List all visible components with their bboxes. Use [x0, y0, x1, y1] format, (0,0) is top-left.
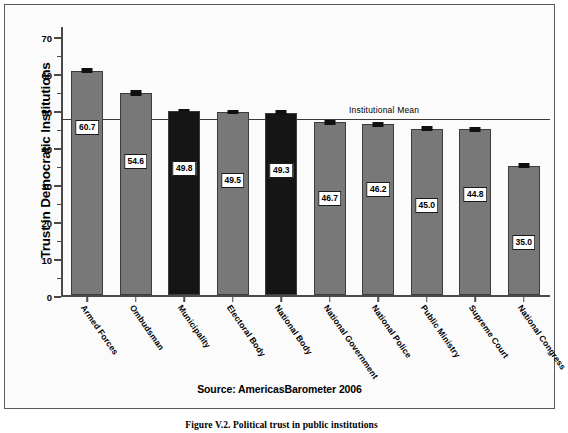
x-axis-label: Public Ministry [419, 303, 463, 359]
bar[interactable] [217, 112, 249, 295]
bar[interactable] [71, 71, 103, 296]
y-tick-minor [57, 167, 61, 169]
y-tick-minor [57, 93, 61, 95]
x-tick [378, 297, 380, 302]
y-tick-label: 0 [47, 292, 52, 303]
bar-value-label: 49.5 [221, 173, 245, 188]
error-bar [421, 126, 432, 130]
y-tick-label: 20 [41, 218, 52, 229]
bar-slot: 45.0Public Ministry [403, 27, 452, 295]
y-tick-label: 30 [41, 181, 52, 192]
y-tick-label: 10 [41, 255, 52, 266]
x-tick [523, 297, 525, 302]
y-tick [54, 259, 61, 261]
bar[interactable] [168, 111, 200, 295]
error-bar [276, 110, 287, 114]
bar-value-label: 46.2 [366, 182, 390, 197]
figure-caption: Figure V.2. Political trust in public in… [0, 420, 563, 430]
bar-value-label: 49.3 [269, 163, 293, 178]
bar-value-label: 60.7 [75, 120, 99, 135]
bar-series: 60.7Armed Forces54.6Ombudsman49.8Municip… [63, 27, 550, 295]
y-tick [54, 37, 61, 39]
y-tick-label: 50 [41, 107, 52, 118]
error-bar [82, 68, 93, 74]
bar[interactable] [120, 93, 152, 295]
bar-slot: 54.6Ombudsman [112, 27, 161, 295]
y-tick-minor [57, 278, 61, 280]
error-bar [130, 90, 141, 97]
x-axis-label: Electoral Body [225, 303, 268, 359]
x-axis-label: National Government [322, 303, 381, 381]
x-axis-label: National Police [370, 303, 414, 360]
x-axis-label: National Body [273, 303, 315, 357]
x-tick [329, 297, 331, 302]
bar[interactable] [265, 113, 297, 295]
chart-frame: Trust in Democratic Institutions 0102030… [4, 4, 555, 409]
x-axis-label: Supreme Court [467, 303, 511, 360]
error-bar [179, 109, 190, 113]
y-tick-label: 60 [41, 70, 52, 81]
bar[interactable] [314, 122, 346, 295]
y-tick [54, 222, 61, 224]
bar-slot: 35.0National Congress [500, 27, 549, 295]
x-axis-label: Ombudsman [128, 303, 167, 352]
bar-value-label: 44.8 [463, 187, 487, 202]
source-note: Source: AmericasBarometer 2006 [5, 383, 554, 395]
bar-slot: 46.2National Police [354, 27, 403, 295]
error-bar [373, 122, 384, 127]
y-tick-label: 70 [41, 33, 52, 44]
y-tick [54, 148, 61, 150]
bar-slot: 49.8Municipality [160, 27, 209, 295]
bar-slot: 44.8Supreme Court [451, 27, 500, 295]
y-tick [54, 74, 61, 76]
plot-area: 010203040506070 Institutional Mean 60.7A… [61, 27, 550, 297]
bar-value-label: 45.0 [415, 198, 439, 213]
x-axis-label: Municipality [176, 303, 213, 350]
y-tick-minor [57, 130, 61, 132]
x-tick [475, 297, 477, 302]
error-bar [324, 120, 335, 125]
x-tick [232, 297, 234, 302]
y-tick-minor [57, 204, 61, 206]
x-tick [135, 297, 137, 302]
x-axis-label: Armed Forces [79, 303, 121, 357]
error-bar [470, 127, 481, 131]
bar-value-label: 35.0 [512, 235, 536, 250]
bar-slot: 49.3National Body [257, 27, 306, 295]
y-tick [54, 111, 61, 113]
x-tick [281, 297, 283, 302]
x-tick [184, 297, 186, 302]
bar-slot: 60.7Armed Forces [63, 27, 112, 295]
x-tick [426, 297, 428, 302]
y-tick-minor [57, 56, 61, 58]
bar-slot: 49.5Electoral Body [209, 27, 258, 295]
bar-slot: 46.7National Government [306, 27, 355, 295]
x-axis-label: National Congress [516, 303, 568, 372]
error-bar [518, 163, 529, 167]
error-bar [227, 110, 238, 114]
x-tick [87, 297, 89, 302]
bar-value-label: 46.7 [318, 191, 342, 206]
bar[interactable] [459, 129, 491, 295]
bar-value-label: 54.6 [124, 154, 148, 169]
y-tick [54, 185, 61, 187]
y-tick [54, 296, 61, 298]
y-tick-label: 40 [41, 144, 52, 155]
bar-value-label: 49.8 [172, 161, 196, 176]
bar[interactable] [508, 166, 540, 295]
bar[interactable] [362, 124, 394, 295]
y-tick-minor [57, 241, 61, 243]
